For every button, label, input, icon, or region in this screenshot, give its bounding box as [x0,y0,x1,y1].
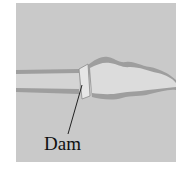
dam [79,64,90,99]
dam-label: Dam [44,133,81,155]
upstream-river-water [16,73,79,89]
river-dam-illustration [0,0,181,169]
